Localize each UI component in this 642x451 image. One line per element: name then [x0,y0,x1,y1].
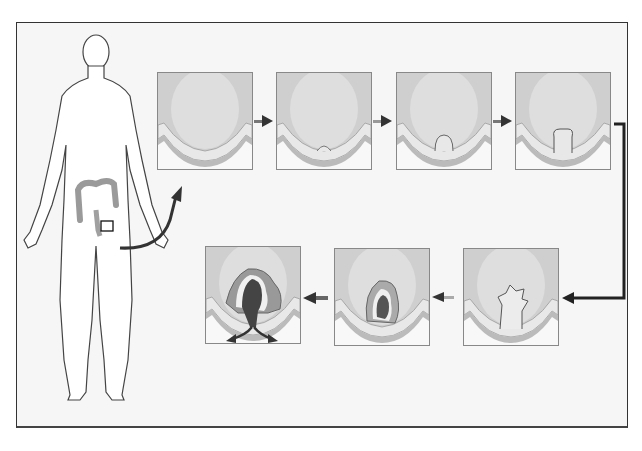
arrow-right-icon [501,115,512,127]
arrow-right-icon [262,115,273,127]
arrow-right-icon [381,115,392,127]
arrow-left-icon [432,292,444,302]
arrow-left-icon [303,292,316,304]
progression-arrows [0,0,642,451]
arrow-left-icon [562,292,574,304]
